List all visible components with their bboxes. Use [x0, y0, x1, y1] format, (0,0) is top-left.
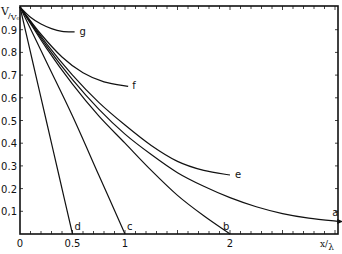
- arrow-icon: [337, 219, 342, 224]
- y-tick-label: 0,1: [1, 206, 17, 217]
- y-tick-label: 0.2: [1, 184, 17, 195]
- curve-label-d: d: [75, 221, 81, 232]
- curve-label-a: a: [332, 207, 338, 218]
- x-tick-label: 2: [227, 238, 233, 249]
- x-axis-title: x/λ: [320, 239, 334, 252]
- curve-label-e: e: [235, 169, 241, 180]
- curve-label-c: c: [127, 221, 133, 232]
- data-curves: [20, 7, 342, 234]
- y-tick-label: 0.9: [1, 25, 17, 36]
- curve-label-g: g: [80, 26, 86, 37]
- curve-labels: abcdefg: [75, 26, 339, 232]
- chart-plot: 00.5120,10.20.30.40.50.60.70.80.9 abcdef…: [0, 0, 342, 254]
- axis-ticks: [20, 6, 338, 234]
- y-tick-label: 0.7: [1, 70, 17, 81]
- x-tick-label: 1: [122, 238, 128, 249]
- x-tick-label: 0.5: [65, 238, 81, 249]
- y-tick-label: 0.6: [1, 93, 17, 104]
- y-axis-title: V/V₀: [0, 5, 20, 22]
- y-tick-label: 0.5: [1, 116, 17, 127]
- axis-titles: V/V₀ x/λ: [0, 5, 334, 252]
- curve-a: [20, 7, 340, 222]
- x-tick-label: 0: [17, 238, 23, 249]
- curve-label-f: f: [132, 80, 136, 91]
- curve-b: [20, 7, 230, 234]
- curve-e: [20, 7, 230, 175]
- y-tick-label: 0.4: [1, 138, 17, 149]
- y-tick-label: 0.3: [1, 161, 17, 172]
- curve-label-b: b: [223, 221, 229, 232]
- y-tick-label: 0.8: [1, 47, 17, 58]
- plot-frame: [20, 6, 338, 234]
